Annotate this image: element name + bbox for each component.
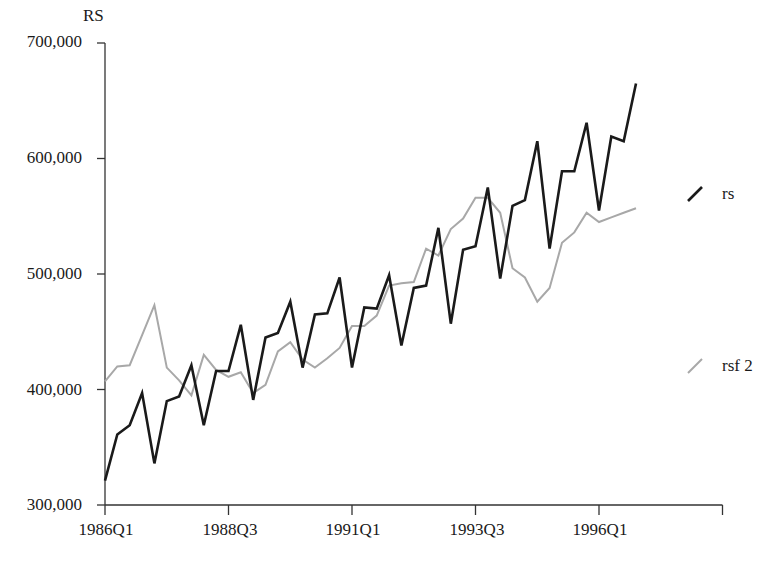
- x-tick-label-1986q1: 1986Q1: [56, 520, 156, 540]
- plot-area: [0, 0, 774, 563]
- y-axis-title: RS: [83, 6, 104, 26]
- legend-swatches: [688, 187, 702, 373]
- legend-swatch-rs: [688, 187, 702, 201]
- x-tick-label-1993q3: 1993Q3: [427, 520, 527, 540]
- series-line-rsf2: [105, 198, 636, 395]
- line-chart: RS 700,000 600,000 500,000 400,000 300,0…: [0, 0, 774, 563]
- y-tick-label-600000: 600,000: [0, 148, 82, 168]
- y-tick-label-500000: 500,000: [0, 264, 82, 284]
- x-tick-label-1988q3: 1988Q3: [180, 520, 280, 540]
- legend-label-rsf2: rsf 2: [722, 356, 753, 376]
- y-tick-label-400000: 400,000: [0, 380, 82, 400]
- x-tick-label-1996q1: 1996Q1: [550, 520, 650, 540]
- series-line-rs: [105, 83, 636, 480]
- legend-label-rs: rs: [722, 184, 734, 204]
- y-tick-label-700000: 700,000: [0, 32, 82, 52]
- x-tick-label-1991q1: 1991Q1: [303, 520, 403, 540]
- legend-swatch-rsf2: [688, 359, 702, 373]
- y-tick-label-300000: 300,000: [0, 495, 82, 515]
- series-lines: [105, 83, 636, 480]
